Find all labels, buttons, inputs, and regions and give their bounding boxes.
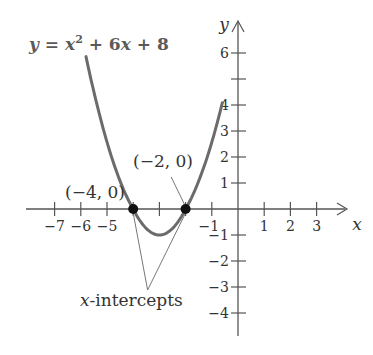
y-tick-label: 3 xyxy=(220,123,229,139)
y-axis-label: y xyxy=(218,14,229,34)
y-tick-label: 2 xyxy=(220,149,229,165)
point-label-minus4: (−4, 0) xyxy=(65,182,125,202)
eq-plus8: + 8 xyxy=(131,34,169,54)
x-tick-label: −5 xyxy=(97,218,118,234)
x-tick-label: −7 xyxy=(44,218,65,234)
annotation-italic-x: x xyxy=(80,290,90,310)
labels: xy(−4, 0)(−2, 0)x-interceptsy = x2 + 6x … xyxy=(28,14,362,310)
axes xyxy=(26,21,347,336)
y-tick-label: −3 xyxy=(208,279,229,295)
point-label-minus2: (−2, 0) xyxy=(133,151,193,171)
x-axis-label: x xyxy=(352,214,362,234)
callout-line xyxy=(133,213,147,290)
eq-equals: = xyxy=(39,34,65,54)
x-tick-label: −6 xyxy=(70,218,91,234)
annotation-rest: -intercepts xyxy=(90,290,183,310)
point-label-leader xyxy=(171,177,184,204)
y-tick-label: −4 xyxy=(208,305,229,321)
x-tick-label: 1 xyxy=(260,218,269,234)
x-intercepts-annotation: x-intercepts xyxy=(80,290,183,310)
eq-plus6: + 6 xyxy=(83,34,121,54)
eq-exponent: 2 xyxy=(75,33,83,46)
callout-line xyxy=(148,213,186,290)
y-tick-label: −1 xyxy=(208,227,229,243)
x-tick-label: 3 xyxy=(312,218,321,234)
intercept-point xyxy=(181,204,191,214)
y-tick-label: −2 xyxy=(208,253,229,269)
x-tick-label: 2 xyxy=(286,218,295,234)
equation-label: y = x2 + 6x + 8 xyxy=(28,33,169,54)
y-tick-label: 6 xyxy=(220,45,229,61)
parabola-graph: −7−6−5−112364321−1−2−3−4 xy(−4, 0)(−2, 0… xyxy=(0,0,373,355)
intercept-point xyxy=(128,204,138,214)
y-tick-label: 1 xyxy=(220,175,229,191)
